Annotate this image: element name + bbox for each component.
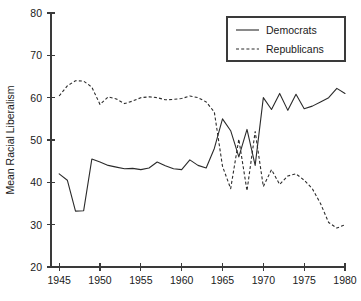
x-tick-label: 1955 (129, 274, 153, 286)
y-tick-label: 30 (30, 219, 42, 231)
legend-label-republicans: Republicans (266, 43, 324, 55)
x-tick-label: 1975 (292, 274, 316, 286)
series-line-democrats (59, 88, 345, 211)
x-tick-label: 1965 (211, 274, 235, 286)
y-tick-label: 20 (30, 261, 42, 273)
y-tick-label: 70 (30, 49, 42, 61)
y-tick-label: 80 (30, 7, 42, 19)
y-tick-label: 60 (30, 92, 42, 104)
x-tick-label: 1980 (333, 274, 357, 286)
racial-liberalism-line-chart: 20304050607080 1945195019551960196519701… (0, 0, 361, 301)
data-series-group (59, 81, 345, 228)
x-tick-label: 1970 (252, 274, 276, 286)
x-tick-label: 1945 (47, 274, 71, 286)
legend-label-democrats: Democrats (266, 24, 317, 36)
y-tick-label: 50 (30, 134, 42, 146)
series-line-republicans (59, 81, 345, 228)
x-tick-label: 1950 (88, 274, 112, 286)
y-axis-title: Mean Racial Liberalism (4, 85, 16, 194)
chart-legend: DemocratsRepublicans (227, 17, 345, 61)
y-tick-label: 40 (30, 176, 42, 188)
x-tick-label: 1960 (170, 274, 194, 286)
chart-canvas: 20304050607080 1945195019551960196519701… (0, 0, 361, 301)
